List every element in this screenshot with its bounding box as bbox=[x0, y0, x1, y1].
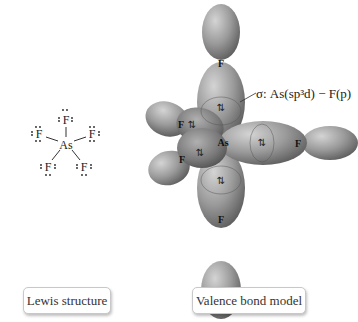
lewis-structure-caption: Lewis structure bbox=[23, 287, 111, 314]
orbital-lobe bbox=[202, 4, 240, 60]
electron-pair: ⇅ bbox=[258, 137, 266, 148]
bond-annotation: σ: As(sp³d) − F(p) bbox=[256, 86, 351, 102]
vb-f-right: F bbox=[295, 138, 301, 149]
vb-f-top: F bbox=[218, 58, 224, 69]
electron-pair: ⇅ bbox=[188, 119, 196, 130]
vb-f-bottom: F bbox=[218, 214, 224, 225]
orbital-lobe bbox=[302, 126, 358, 160]
vb-f-lower-left: F bbox=[179, 154, 185, 165]
vb-center-atom: As bbox=[217, 137, 228, 148]
electron-pair: ⇅ bbox=[196, 147, 204, 158]
valence-bond-caption: Valence bond model bbox=[192, 287, 306, 314]
vb-f-upper-left: F bbox=[178, 119, 184, 130]
valence-bond-diagram: As F F F F F ⇅ ⇅ ⇅ ⇅ ⇅ bbox=[0, 0, 358, 322]
electron-pair: ⇅ bbox=[217, 102, 225, 113]
electron-pair: ⇅ bbox=[217, 175, 225, 186]
